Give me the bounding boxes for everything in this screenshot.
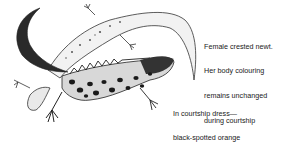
caption-line: In courtship dress—: [173, 110, 257, 118]
caption-line: Her body colouring: [204, 67, 273, 75]
caption-line: black-spotted orange: [173, 134, 257, 142]
male-newt-caption: In courtship dress— black-spotted orange…: [173, 93, 257, 147]
caption-line: Female crested newt.: [204, 43, 273, 51]
newt-illustration: [0, 0, 200, 147]
